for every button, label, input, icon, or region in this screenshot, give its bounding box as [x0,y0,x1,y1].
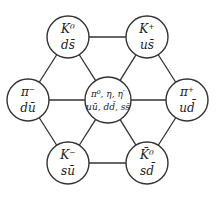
edge-center-K0 [79,55,95,81]
node-circle [85,77,131,123]
node-k-minus: K⁻ sū [47,142,89,184]
quark-label: sū [61,164,75,178]
particle-label: K⁰ [60,22,75,36]
edge-Kplus-piplus [158,55,175,83]
node-center: π⁰, η, η′ uū, dd̄, ss̄ [85,77,131,123]
edge-Kminus-piminus [39,118,56,146]
edge-center-Kminus [79,119,95,145]
node-k0-bar: K̄⁰ sd̄ [126,142,168,184]
node-pi-plus: π⁺ ud̄ [166,79,208,121]
node-pi-minus: π⁻ dū [7,79,49,121]
quark-label: ds̄ [61,38,75,52]
node-layer: K⁰ ds̄ K⁺ us̄ π⁻ dū π⁰, η, η′ uū, dd̄, s… [7,16,208,184]
quark-label: us̄ [140,38,154,52]
particle-label: K⁺ [138,22,154,36]
particle-label: π⁺ [179,85,194,99]
meson-nonet-diagram: K⁰ ds̄ K⁺ us̄ π⁻ dū π⁰, η, η′ uū, dd̄, s… [0,0,217,201]
particle-label: π⁻ [20,85,35,99]
particle-label: π⁰, η, η′ [90,89,125,99]
node-k-plus: K⁺ us̄ [126,16,168,58]
edge-piminus-K0 [39,55,56,83]
particle-label: K⁻ [59,148,75,162]
quark-label: sd̄ [140,162,156,178]
edge-center-Kplus [120,55,136,81]
edge-piplus-K0bar [158,118,175,146]
node-k0: K⁰ ds̄ [47,16,89,58]
edge-center-K0bar [120,120,136,146]
quark-label: uū, dd̄, ss̄ [86,101,130,112]
particle-label: K̄⁰ [139,147,154,162]
quark-label: dū [20,101,35,115]
quark-label: ud̄ [179,99,196,115]
